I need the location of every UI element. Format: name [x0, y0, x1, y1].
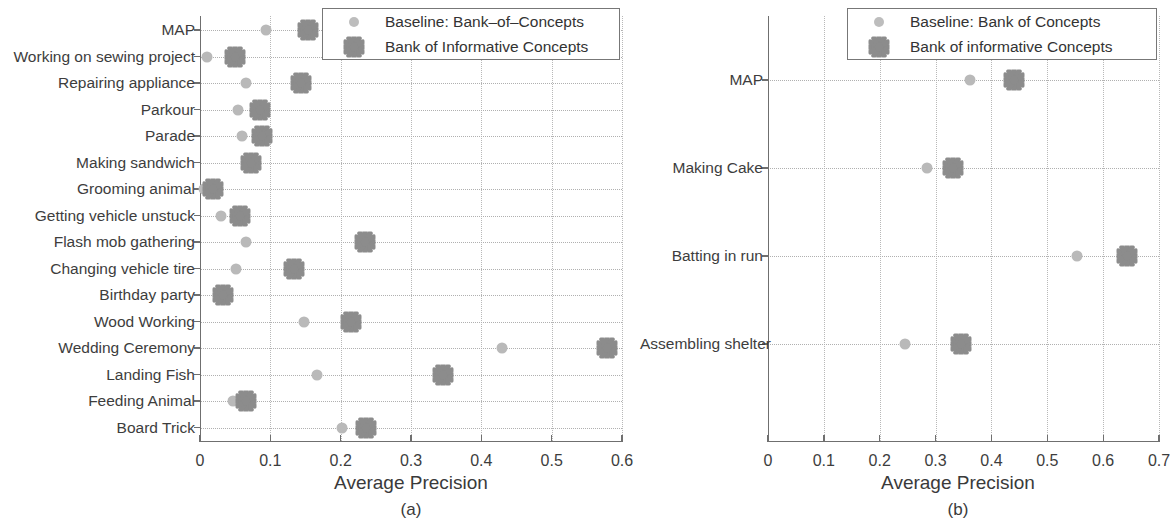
panel-caption-b: (b)	[768, 500, 1148, 520]
y-axis-tick	[194, 347, 201, 348]
plot-area-a: 00.10.20.30.40.50.6MAPWorking on sewing …	[0, 0, 640, 520]
gridline-horizontal	[200, 269, 622, 270]
y-axis-tick	[194, 400, 201, 401]
x-axis-tick	[1047, 435, 1048, 442]
gridline-horizontal	[200, 163, 622, 164]
gridline-vertical	[552, 16, 553, 441]
data-point-informative	[230, 205, 251, 226]
gridline-vertical	[622, 16, 623, 441]
y-axis-tick	[762, 79, 769, 80]
y-axis-line	[200, 16, 201, 441]
legend-star-label-b: Bank of informative Concepts	[910, 39, 1112, 55]
gridline-vertical	[270, 16, 271, 441]
x-axis-line	[768, 441, 1159, 442]
x-axis-tick	[1103, 435, 1104, 442]
data-point-baseline	[240, 237, 251, 248]
legend-a: Baseline: Bank–of–Concepts Bank of Infor…	[322, 8, 620, 60]
data-point-informative	[236, 391, 257, 412]
y-axis-tick	[194, 241, 201, 242]
baseline-circle-icon	[874, 17, 884, 27]
star-burst-icon	[869, 36, 890, 57]
y-axis-category-label: Batting in run	[640, 248, 763, 264]
chart-panel-a: 00.10.20.30.40.50.6MAPWorking on sewing …	[0, 0, 640, 520]
gridline-horizontal	[768, 256, 1159, 257]
y-axis-category-label: MAP	[640, 72, 763, 88]
y-axis-tick	[194, 29, 201, 30]
gridline-horizontal	[200, 401, 622, 402]
baseline-circle-icon	[349, 17, 359, 27]
data-point-baseline	[216, 210, 227, 221]
legend-row-star-b: Bank of informative Concepts	[848, 34, 1156, 59]
legend-star-marker-cell-b	[848, 34, 910, 59]
star-burst-icon	[344, 36, 365, 57]
x-axis-tick-label: 0.4	[451, 453, 511, 469]
data-point-baseline	[299, 316, 310, 327]
data-point-baseline	[261, 25, 272, 36]
y-axis-category-label: Landing Fish	[0, 367, 195, 383]
y-axis-category-label: Changing vehicle tire	[0, 261, 195, 277]
data-point-baseline	[922, 163, 933, 174]
y-axis-category-label: Parade	[0, 128, 195, 144]
legend-baseline-label-b: Baseline: Bank of Concepts	[910, 14, 1100, 30]
x-axis-tick-label: 0.3	[906, 453, 966, 469]
x-axis-tick	[879, 435, 880, 442]
x-axis-tick-label: 0.2	[850, 453, 910, 469]
y-axis-category-label: Flash mob gathering	[0, 234, 195, 250]
x-axis-tick-label: 0.5	[522, 453, 582, 469]
y-axis-tick	[194, 374, 201, 375]
x-axis-tick	[991, 435, 992, 442]
y-axis-tick	[194, 109, 201, 110]
data-point-informative	[341, 311, 362, 332]
y-axis-category-label: Wood Working	[0, 314, 195, 330]
data-point-baseline	[964, 75, 975, 86]
x-axis-tick	[823, 435, 824, 442]
gridline-vertical	[411, 16, 412, 441]
data-point-informative	[240, 152, 261, 173]
gridline-horizontal	[768, 168, 1159, 169]
legend-b: Baseline: Bank of Concepts Bank of infor…	[847, 8, 1157, 60]
data-point-informative	[1117, 246, 1138, 267]
data-point-informative	[225, 46, 246, 67]
y-axis-category-label: Feeding Animal	[0, 393, 195, 409]
y-axis-category-label: MAP	[0, 22, 195, 38]
gridline-horizontal	[200, 216, 622, 217]
x-axis-tick	[551, 435, 552, 442]
gridline-vertical	[481, 16, 482, 441]
x-axis-title-a: Average Precision	[200, 472, 622, 494]
x-axis-tick-label: 0.7	[1129, 453, 1174, 469]
data-point-baseline	[1072, 251, 1083, 262]
y-axis-tick	[762, 255, 769, 256]
gridline-horizontal	[200, 83, 622, 84]
panel-caption-a: (a)	[200, 500, 622, 520]
y-axis-tick	[194, 427, 201, 428]
y-axis-tick	[194, 321, 201, 322]
y-axis-category-label: Grooming animal	[0, 181, 195, 197]
y-axis-category-label: Parkour	[0, 102, 195, 118]
gridline-horizontal	[200, 322, 622, 323]
data-point-informative	[283, 258, 304, 279]
x-axis-tick	[935, 435, 936, 442]
y-axis-category-label: Making Cake	[640, 160, 763, 176]
y-axis-category-label: Assembling shelter	[640, 336, 763, 352]
plot-area-b: 00.10.20.30.40.50.60.7MAPMaking CakeBatt…	[640, 0, 1159, 520]
gridline-vertical	[1159, 16, 1160, 441]
gridline-horizontal	[200, 348, 622, 349]
x-axis-tick	[270, 435, 271, 442]
data-point-informative	[290, 73, 311, 94]
data-point-informative	[249, 99, 270, 120]
y-axis-tick	[194, 82, 201, 83]
data-point-informative	[251, 126, 272, 147]
y-axis-tick	[194, 162, 201, 163]
data-point-informative	[1004, 70, 1025, 91]
x-axis-tick	[199, 435, 200, 442]
y-axis-category-label: Repairing appliance	[0, 75, 195, 91]
gridline-horizontal	[200, 428, 622, 429]
x-axis-tick	[410, 435, 411, 442]
legend-row-baseline-a: Baseline: Bank–of–Concepts	[323, 9, 619, 34]
y-axis-category-label: Working on sewing project	[0, 49, 195, 65]
x-axis-tick	[481, 435, 482, 442]
gridline-horizontal	[200, 242, 622, 243]
legend-star-label-a: Bank of Informative Concepts	[385, 39, 588, 55]
data-point-baseline	[232, 104, 243, 115]
x-axis-tick-label: 0.1	[794, 453, 854, 469]
